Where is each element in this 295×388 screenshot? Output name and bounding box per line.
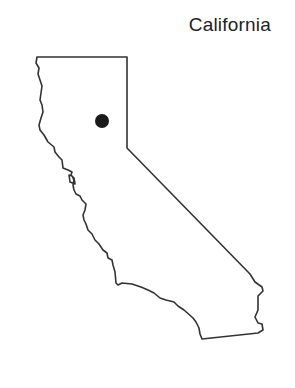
state-outline [36, 57, 263, 339]
location-marker-icon [95, 114, 109, 128]
california-map [0, 0, 295, 388]
